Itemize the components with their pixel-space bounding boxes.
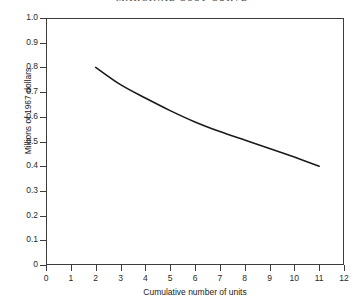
x-axis-label: Cumulative number of units xyxy=(46,287,344,297)
x-tick-mark xyxy=(96,265,97,271)
x-tick-label: 11 xyxy=(309,273,329,283)
x-tick-label: 7 xyxy=(210,273,230,283)
x-tick-label: 2 xyxy=(86,273,106,283)
y-tick-label: 0 xyxy=(12,259,38,269)
x-tick-mark xyxy=(344,265,345,271)
x-tick-mark xyxy=(145,265,146,271)
x-tick-mark xyxy=(294,265,295,271)
x-tick-mark xyxy=(220,265,221,271)
x-tick-mark xyxy=(170,265,171,271)
x-tick-mark xyxy=(245,265,246,271)
marginal-cost-curve xyxy=(46,18,344,265)
x-tick-label: 5 xyxy=(160,273,180,283)
x-tick-label: 1 xyxy=(61,273,81,283)
x-tick-mark xyxy=(270,265,271,271)
x-tick-mark xyxy=(195,265,196,271)
x-tick-label: 8 xyxy=(235,273,255,283)
y-axis-label: Millions of 1967 dollars xyxy=(23,31,33,191)
x-tick-label: 0 xyxy=(36,273,56,283)
y-tick-label: 0.2 xyxy=(12,210,38,220)
x-tick-mark xyxy=(121,265,122,271)
x-tick-mark xyxy=(46,265,47,271)
x-tick-label: 3 xyxy=(111,273,131,283)
x-tick-label: 4 xyxy=(135,273,155,283)
x-tick-label: 6 xyxy=(185,273,205,283)
y-tick-label: 1.0 xyxy=(12,12,38,22)
x-tick-label: 9 xyxy=(260,273,280,283)
x-tick-label: 12 xyxy=(334,273,354,283)
chart-title: MARGINAL COST CURVE xyxy=(0,0,364,3)
x-tick-label: 10 xyxy=(284,273,304,283)
x-tick-mark xyxy=(319,265,320,271)
y-tick-label: 0.1 xyxy=(12,234,38,244)
x-tick-mark xyxy=(71,265,72,271)
marginal-cost-chart: MARGINAL COST CURVE 00.10.20.30.40.50.60… xyxy=(0,0,364,308)
curve-line xyxy=(96,67,320,166)
